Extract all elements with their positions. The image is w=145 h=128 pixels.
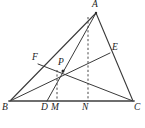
segment-side-AB: [10, 13, 96, 101]
vertex-label-B: B: [2, 103, 8, 113]
point-marker-A: [95, 12, 97, 14]
vertex-label-C: C: [134, 103, 140, 113]
vertex-label-A: A: [92, 0, 98, 10]
geometry-canvas: [0, 0, 145, 128]
vertex-label-E: E: [112, 43, 118, 53]
vertex-label-F: F: [32, 53, 38, 63]
geometry-figure: A B C E F P D M N: [0, 0, 145, 128]
vertex-label-P: P: [58, 58, 64, 68]
segment-cevian-FC: [38, 64, 133, 101]
vertex-label-M: M: [51, 103, 59, 113]
point-marker-P: [62, 70, 65, 73]
vertex-label-D: D: [41, 103, 48, 113]
vertex-label-N: N: [82, 103, 88, 113]
segment-cevian-AD: [47, 13, 96, 101]
